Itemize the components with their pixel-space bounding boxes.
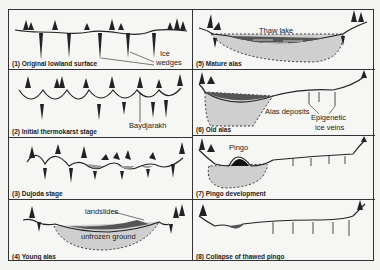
label-epigenetic: Epigenetic bbox=[311, 114, 346, 122]
caption-panel-6: (6) Old alas bbox=[196, 126, 231, 133]
label-baydjarakh: Baydjarakh bbox=[129, 122, 167, 130]
label-unfrozen-ground: unfrozen ground bbox=[81, 233, 136, 241]
label-landslides: landslides bbox=[85, 208, 118, 216]
caption-panel-5: (5) Mature alas bbox=[196, 60, 242, 67]
panel-original-lowland: Ice wedges (1) Original lowland surface bbox=[9, 10, 192, 69]
panel-young-alas: landslides unfrozen ground (4) Young ala… bbox=[9, 200, 192, 262]
panel-collapse-pingo: (8) Collapse of thawed pingo bbox=[193, 200, 375, 262]
panel-dujoda: (3) Dujoda stage bbox=[9, 138, 192, 199]
label-ice: Ice bbox=[160, 50, 170, 58]
panel-old-alas: Alas deposits Epigenetic ice veins (6) O… bbox=[193, 70, 375, 135]
label-wedges: wedges bbox=[156, 59, 182, 67]
label-ice-veins: ice veins bbox=[315, 124, 344, 132]
caption-panel-3: (3) Dujoda stage bbox=[12, 190, 63, 197]
label-alas-deposits: Alas deposits bbox=[265, 108, 310, 116]
figure-frame: Ice wedges (1) Original lowland surface … bbox=[8, 9, 374, 261]
caption-panel-1: (1) Original lowland surface bbox=[12, 60, 97, 67]
caption-panel-4: (4) Young alas bbox=[12, 253, 56, 260]
caption-panel-2: (2) Initial thermokarst stage bbox=[12, 128, 97, 135]
caption-panel-8: (8) Collapse of thawed pingo bbox=[196, 253, 284, 260]
caption-panel-7: (7) Pingo development bbox=[196, 190, 266, 197]
panel-initial-thermokarst: Baydjarakh (2) Initial thermokarst stage bbox=[9, 70, 192, 137]
panel-pingo-development: Pingo (7) Pingo development bbox=[193, 136, 375, 199]
label-thaw-lake: Thaw lake bbox=[259, 27, 293, 35]
label-pingo: Pingo bbox=[229, 144, 248, 152]
panel-mature-alas: Thaw lake (5) Mature alas bbox=[193, 10, 375, 69]
